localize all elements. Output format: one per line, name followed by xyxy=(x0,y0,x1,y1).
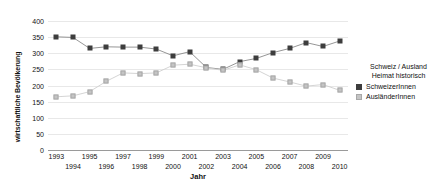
x-tick-label: 1997 xyxy=(115,153,131,160)
series-line-1 xyxy=(56,64,339,97)
data-point xyxy=(304,40,309,45)
legend-item-ausländerinnen[interactable]: AusländerInnen xyxy=(356,93,441,100)
data-point xyxy=(121,70,126,75)
data-point xyxy=(187,49,192,54)
series-layer xyxy=(48,21,348,150)
series-line-0 xyxy=(56,37,339,70)
x-tick-label: 2002 xyxy=(199,163,215,170)
gridline xyxy=(48,150,348,151)
data-point xyxy=(154,47,159,52)
data-point xyxy=(171,53,176,58)
legend-items: SchweizerInnenAusländerInnen xyxy=(356,83,441,100)
data-point xyxy=(321,82,326,87)
data-point xyxy=(287,79,292,84)
x-tick-label: 2000 xyxy=(165,163,181,170)
y-tick-label: 400 xyxy=(32,18,44,25)
data-point xyxy=(337,38,342,43)
legend-title-line: Schweiz / Ausland xyxy=(356,62,441,71)
data-point xyxy=(54,94,59,99)
x-tick-label: 1996 xyxy=(99,163,115,170)
y-tick-label: 300 xyxy=(32,50,44,57)
x-tick-label: 2008 xyxy=(299,163,315,170)
y-tick-label: 350 xyxy=(32,34,44,41)
x-axis-title: Jahr xyxy=(0,172,396,181)
x-tick-label: 2006 xyxy=(265,163,281,170)
x-tick-label: 1995 xyxy=(82,153,98,160)
data-point xyxy=(54,34,59,39)
x-tick-label: 2004 xyxy=(232,163,248,170)
data-point xyxy=(254,56,259,61)
plot-area: 050100150200250300350400 xyxy=(48,21,348,150)
data-point xyxy=(104,44,109,49)
legend-title-line: Heimat historisch xyxy=(356,71,441,80)
y-tick-label: 0 xyxy=(40,147,44,154)
data-point xyxy=(71,35,76,40)
legend-item-label: AusländerInnen xyxy=(366,93,415,100)
data-point xyxy=(104,79,109,84)
data-point xyxy=(337,88,342,93)
data-point xyxy=(204,65,209,70)
legend: Schweiz / AuslandHeimat historisch Schwe… xyxy=(356,62,441,100)
x-tick-label: 1998 xyxy=(132,163,148,170)
x-tick-label: 2009 xyxy=(315,153,331,160)
y-tick-label: 250 xyxy=(32,66,44,73)
data-point xyxy=(87,89,92,94)
legend-swatch-icon xyxy=(356,94,362,100)
legend-item-schweizerinnen[interactable]: SchweizerInnen xyxy=(356,83,441,90)
legend-item-label: SchweizerInnen xyxy=(366,83,416,90)
data-point xyxy=(221,68,226,73)
data-point xyxy=(137,45,142,50)
y-tick-label: 100 xyxy=(32,114,44,121)
x-tick-label: 2005 xyxy=(249,153,265,160)
x-tick-label: 2010 xyxy=(332,163,348,170)
chart-container: wirtschaftliche Bevölkerung 050100150200… xyxy=(0,0,441,193)
y-tick-label: 50 xyxy=(36,130,44,137)
data-point xyxy=(254,67,259,72)
x-tick-label: 1994 xyxy=(65,163,81,170)
x-tick-label: 1993 xyxy=(49,153,65,160)
x-tick-label: 2001 xyxy=(182,153,198,160)
data-point xyxy=(287,46,292,51)
data-point xyxy=(171,63,176,68)
data-point xyxy=(321,44,326,49)
data-point xyxy=(121,45,126,50)
x-tick-label: 1999 xyxy=(149,153,165,160)
data-point xyxy=(304,84,309,89)
legend-swatch-icon xyxy=(356,84,362,90)
data-point xyxy=(87,46,92,51)
legend-title: Schweiz / AuslandHeimat historisch xyxy=(356,62,441,80)
data-point xyxy=(137,71,142,76)
data-point xyxy=(154,70,159,75)
x-tick-label: 2007 xyxy=(282,153,298,160)
data-point xyxy=(71,93,76,98)
data-point xyxy=(237,62,242,67)
y-axis-title: wirtschaftliche Bevölkerung xyxy=(14,32,28,162)
x-tick-label: 2003 xyxy=(215,153,231,160)
y-tick-label: 200 xyxy=(32,82,44,89)
data-point xyxy=(187,62,192,67)
data-point xyxy=(271,76,276,81)
data-point xyxy=(271,50,276,55)
y-tick-label: 150 xyxy=(32,98,44,105)
